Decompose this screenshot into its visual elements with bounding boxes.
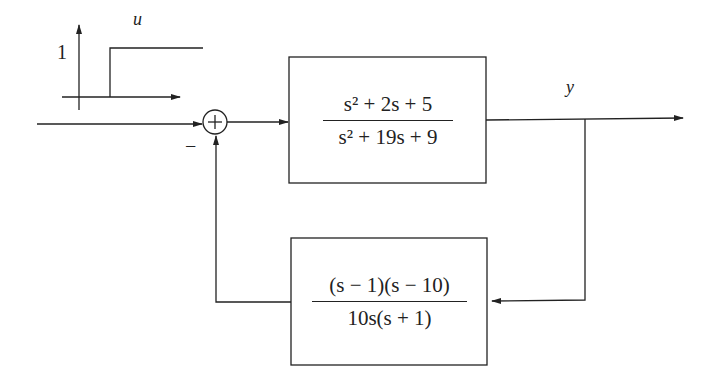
feedback-numerator: (s − 1)(s − 10) bbox=[312, 273, 467, 298]
forward-transfer-function: s² + 2s + 5 s² + 19s + 9 bbox=[323, 92, 453, 150]
feedback-transfer-function: (s − 1)(s − 10) 10s(s + 1) bbox=[312, 273, 467, 331]
fraction-bar bbox=[323, 120, 453, 121]
feedback-sign-label: − bbox=[185, 136, 196, 156]
forward-denominator: s² + 19s + 9 bbox=[323, 125, 453, 150]
feedback-return-line bbox=[216, 136, 291, 302]
step-amplitude-label: 1 bbox=[57, 42, 67, 62]
feedback-denominator: 10s(s + 1) bbox=[312, 306, 467, 331]
input-signal-label: u bbox=[133, 10, 142, 28]
feedback-pickoff-line bbox=[492, 119, 585, 301]
fraction-bar bbox=[312, 301, 467, 302]
forward-numerator: s² + 2s + 5 bbox=[323, 92, 453, 117]
output-signal-label: y bbox=[566, 78, 574, 96]
step-signal bbox=[110, 48, 203, 97]
